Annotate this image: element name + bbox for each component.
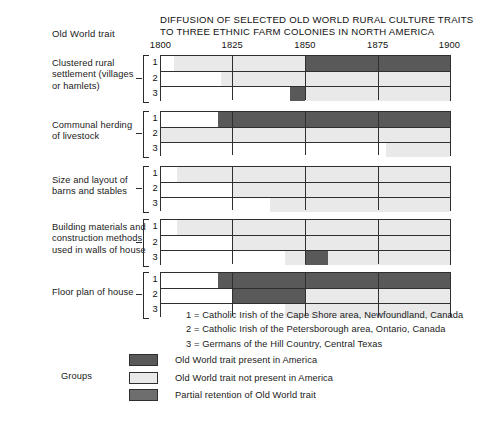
timeline-segment-absent bbox=[174, 56, 305, 71]
timeline-segment-present bbox=[305, 250, 328, 265]
timeline-segment-none bbox=[161, 86, 291, 101]
trait-label-line: construction methods bbox=[52, 233, 146, 244]
legend-label-partial: Partial retention of Old World trait bbox=[175, 389, 316, 402]
trait-label: Floor plan of house bbox=[52, 287, 134, 298]
trait-bracket bbox=[143, 55, 149, 103]
trait-label: Communal herdingof livestock bbox=[52, 120, 132, 143]
timeline-segment-absent bbox=[221, 72, 450, 87]
timeline-segment-none bbox=[161, 289, 233, 304]
trait-plot bbox=[160, 55, 451, 101]
row-group-number: 2 bbox=[150, 289, 160, 299]
row-group-number: 1 bbox=[150, 274, 160, 284]
timeline-segment-none bbox=[161, 236, 233, 251]
row-group-number: 3 bbox=[150, 198, 160, 208]
timeline-segment-absent bbox=[328, 250, 449, 265]
gridline-1850 bbox=[305, 167, 306, 210]
chart-title-line-1: DIFFUSION OF SELECTED OLD WORLD RURAL CU… bbox=[160, 14, 470, 26]
group-key-line: 2 = Catholic Irish of the Petersborough … bbox=[186, 322, 463, 336]
trait-label-line: or hamlets) bbox=[52, 81, 134, 92]
row-group-number: 3 bbox=[150, 252, 160, 262]
timeline-segment-absent bbox=[232, 183, 449, 198]
row-group-number: 2 bbox=[150, 237, 160, 247]
trait-label-line: Size and layout of bbox=[52, 175, 128, 186]
group-key-line: 1 = Catholic Irish of the Cape Shore are… bbox=[186, 308, 463, 322]
trait-label-line: settlement (villages bbox=[52, 69, 134, 80]
gridline-1825 bbox=[232, 167, 233, 210]
legend-swatch-absent bbox=[129, 372, 158, 384]
timeline-segment-present bbox=[218, 273, 450, 288]
x-tick-label-1900: 1900 bbox=[439, 40, 460, 50]
trait-bracket bbox=[143, 166, 149, 213]
group-key-list: 1 = Catholic Irish of the Cape Shore are… bbox=[186, 308, 463, 351]
trait-bracket-stem bbox=[136, 242, 142, 243]
trait-plot bbox=[160, 111, 451, 156]
trait-bracket-stem bbox=[136, 133, 142, 134]
trait-label-line: barns and stables bbox=[52, 186, 128, 197]
x-tick-label-1875: 1875 bbox=[367, 40, 388, 50]
legend-swatch-present bbox=[129, 354, 158, 366]
legend-label-present: Old World trait present in America bbox=[175, 354, 317, 367]
row-group-number: 3 bbox=[150, 143, 160, 153]
timeline-segment-present bbox=[290, 86, 305, 101]
row-label-header: Old World trait bbox=[52, 28, 115, 39]
gridline-1850 bbox=[305, 220, 306, 264]
trait-label-line: Building materials and bbox=[52, 222, 146, 233]
timeline-segment-none bbox=[161, 250, 285, 265]
timeline-segment-absent bbox=[177, 167, 450, 182]
gridline-1875 bbox=[378, 56, 379, 100]
gridline-1850 bbox=[305, 112, 306, 155]
groups-word-label: Groups bbox=[61, 371, 92, 381]
trait-plot bbox=[160, 219, 451, 265]
timeline-segment-none bbox=[161, 273, 218, 288]
trait-label-line: Clustered rural bbox=[52, 58, 134, 69]
row-group-number: 1 bbox=[150, 113, 160, 123]
trait-bracket-stem bbox=[136, 294, 142, 295]
row-group-number: 2 bbox=[150, 73, 160, 83]
x-tick-label-1825: 1825 bbox=[222, 40, 243, 50]
row-group-number: 2 bbox=[150, 183, 160, 193]
trait-label: Clustered ruralsettlement (villagesor ha… bbox=[52, 58, 134, 92]
row-group-number: 2 bbox=[150, 128, 160, 138]
trait-label-line: of livestock bbox=[52, 131, 132, 142]
trait-label-line: used in walls of house bbox=[52, 245, 146, 256]
gridline-1875 bbox=[378, 220, 379, 264]
gridline-1875 bbox=[378, 167, 379, 210]
trait-label: Building materials andconstruction metho… bbox=[52, 222, 146, 256]
timeline-segment-none bbox=[161, 183, 233, 198]
row-group-number: 3 bbox=[150, 304, 160, 314]
timeline-segment-absent bbox=[386, 142, 449, 157]
timeline-segment-none bbox=[161, 167, 177, 182]
legend-swatch-partial bbox=[129, 389, 158, 401]
gridline-1825 bbox=[232, 56, 233, 100]
timeline-segment-none bbox=[161, 56, 175, 71]
trait-label-line: Floor plan of house bbox=[52, 287, 134, 298]
legend-label-absent: Old World trait not present in America bbox=[175, 372, 333, 385]
row-group-number: 3 bbox=[150, 88, 160, 98]
gridline-1825 bbox=[232, 112, 233, 155]
timeline-segment-absent bbox=[177, 220, 450, 235]
x-tick-label-1850: 1850 bbox=[294, 40, 315, 50]
timeline-segment-none bbox=[161, 112, 218, 127]
chart-title-line-2: TO THREE ETHNIC FARM COLONIES IN NORTH A… bbox=[160, 26, 470, 38]
row-group-number: 1 bbox=[150, 221, 160, 231]
trait-label-line: Communal herding bbox=[52, 120, 132, 131]
trait-bracket bbox=[143, 272, 149, 319]
timeline-segment-none bbox=[161, 142, 387, 157]
timeline-segment-present bbox=[232, 289, 305, 304]
gridline-1825 bbox=[232, 220, 233, 264]
trait-label: Size and layout ofbarns and stables bbox=[52, 175, 128, 198]
timeline-segment-absent bbox=[270, 197, 449, 212]
trait-plot bbox=[160, 166, 451, 211]
timeline-segment-none bbox=[161, 197, 271, 212]
x-tick-label-1800: 1800 bbox=[150, 40, 171, 50]
trait-bracket bbox=[143, 111, 149, 158]
trait-bracket-stem bbox=[136, 188, 142, 189]
group-key-line: 3 = Germans of the Hill Country, Central… bbox=[186, 337, 463, 351]
gridline-1875 bbox=[378, 112, 379, 155]
chart-title: DIFFUSION OF SELECTED OLD WORLD RURAL CU… bbox=[160, 14, 470, 37]
trait-bracket bbox=[143, 219, 149, 267]
timeline-segment-absent bbox=[285, 250, 305, 265]
trait-bracket-stem bbox=[136, 78, 142, 79]
row-group-number: 1 bbox=[150, 168, 160, 178]
timeline-segment-none bbox=[161, 220, 177, 235]
